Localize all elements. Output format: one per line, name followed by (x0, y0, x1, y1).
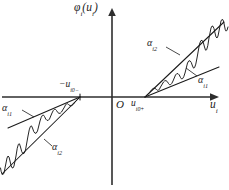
sector-label-upper-left-subscript: i1 (7, 110, 12, 117)
origin-label: O (116, 99, 124, 110)
y-axis-arrow-icon (108, 8, 116, 16)
sector-bound-lower-left (2, 97, 80, 174)
x-axis-label-subscript: i (216, 107, 218, 115)
breakpoint-negative-label: −ui0− (59, 80, 79, 90)
nonlinearity-figure: φi(ui) ui O ui0+ −ui0− αi2 αi1 αi1 αi2 (0, 0, 229, 190)
breakpoint-positive-subscript: i0+ (136, 106, 145, 112)
leader-alpha-i1-right (186, 68, 197, 76)
sector-bound-upper-left (8, 97, 80, 128)
y-axis-label-u-subscript: i (92, 10, 94, 18)
breakpoint-negative-base: −u (59, 79, 70, 89)
leader-alpha-i1-left (22, 110, 34, 117)
sector-label-upper-left: αi1 (2, 103, 12, 113)
leader-alpha-i2-right (166, 47, 180, 55)
breakpoint-negative-subscript: i0− (70, 87, 79, 93)
y-axis-label-paren-close: ) (94, 1, 98, 13)
leader-alpha-i2-left (44, 139, 52, 146)
y-axis-label: φi(ui) (74, 2, 98, 14)
sector-label-upper-right-subscript: i2 (152, 45, 157, 52)
sector-label-upper-right: αi2 (147, 38, 157, 48)
figure-canvas (0, 0, 229, 190)
x-axis-label: ui (210, 99, 218, 111)
breakpoint-positive-label: ui0+ (131, 99, 144, 109)
x-axis-label-u: u (210, 98, 216, 110)
sector-label-lower-left-subscript: i2 (57, 149, 62, 156)
sector-bound-upper-right (145, 22, 224, 97)
sector-label-lower-right-subscript: i1 (203, 82, 208, 89)
sector-label-lower-left: αi2 (52, 142, 62, 152)
sector-label-lower-right: αi1 (198, 75, 208, 85)
